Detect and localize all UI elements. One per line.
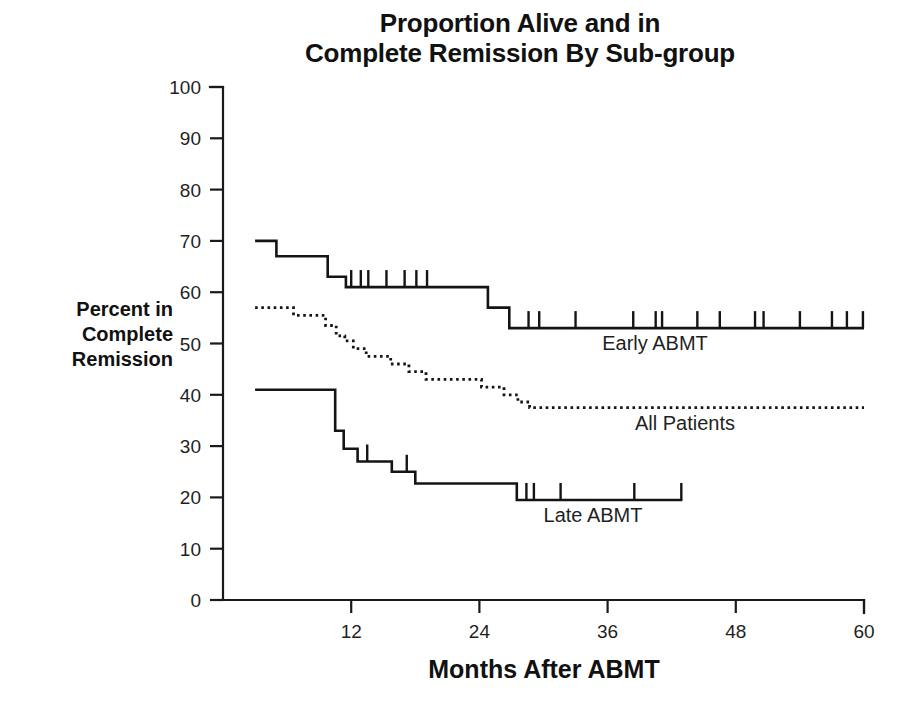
y-tick-label: 90 [180,128,201,149]
censor-marks-group [351,270,863,500]
curve-label-all: All Patients [635,412,735,434]
y-tick-label: 70 [180,231,201,252]
curve-all-patients [255,308,864,408]
curve-late-abmt [255,390,682,500]
series-group [255,241,864,500]
x-tick-label: 60 [853,621,874,642]
y-tick-label: 60 [180,282,201,303]
curve-label-early: Early ABMT [602,332,708,354]
plot-area: 0102030405060708090100 1224364860 Early … [0,0,904,712]
x-tick-label: 48 [725,621,746,642]
y-axis: 0102030405060708090100 [169,77,223,611]
y-tick-label: 30 [180,436,201,457]
curve-label-late: Late ABMT [544,504,643,526]
y-tick-label: 100 [169,77,201,98]
curve-labels-group: Early ABMTAll PatientsLate ABMT [544,332,736,526]
y-tick-label: 80 [180,180,201,201]
y-tick-label: 0 [190,590,201,611]
y-tick-label: 20 [180,487,201,508]
x-tick-label: 36 [597,621,618,642]
x-axis: 1224364860 [223,600,875,642]
y-tick-label: 50 [180,334,201,355]
x-tick-label: 24 [469,621,491,642]
curve-early-abmt [255,241,864,328]
y-tick-label: 40 [180,385,201,406]
x-tick-label: 12 [341,621,362,642]
y-tick-label: 10 [180,539,201,560]
chart-figure: Proportion Alive and in Complete Remissi… [0,0,904,712]
